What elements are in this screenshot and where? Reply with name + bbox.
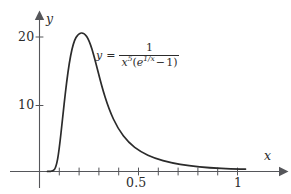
y-tick-label-10: 10 [18, 99, 34, 112]
denominator-minus-sign: − [156, 56, 165, 69]
function-plot-figure: 20 10 0.5 1 x y y = 1 x5(e1/x − 1) [0, 0, 291, 194]
y-tick-label-20: 20 [18, 31, 34, 44]
x-axis-label: x [264, 150, 271, 163]
plot-canvas [0, 0, 291, 194]
equation-fraction: 1 x5(e1/x − 1) [119, 42, 179, 68]
equation-equals-sign: = [105, 49, 116, 62]
equation-annotation: y = 1 x5(e1/x − 1) [96, 42, 179, 68]
y-axis-label: y [46, 13, 53, 26]
equation-lhs: y [96, 49, 102, 62]
x-tick-label-0.5: 0.5 [126, 177, 146, 190]
equation-numerator: 1 [142, 42, 157, 55]
denominator-close-paren: ) [173, 56, 177, 69]
denominator-e-exponent: 1/x [143, 54, 154, 63]
x-tick-label-1: 1 [234, 177, 242, 190]
equation-denominator: x5(e1/x − 1) [119, 56, 179, 69]
x-axis-arrow-head [279, 167, 289, 176]
y-axis-arrow-head [35, 11, 44, 21]
